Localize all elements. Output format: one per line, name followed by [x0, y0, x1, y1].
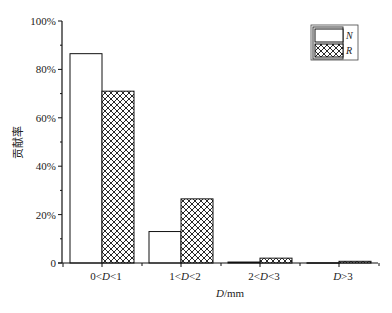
legend: NR	[311, 25, 358, 60]
legend-label-r: R	[345, 45, 352, 56]
legend-swatch-n	[315, 29, 343, 42]
y-tick-label: 20%	[36, 209, 56, 221]
legend-swatch-r	[315, 44, 343, 57]
legend-label-n: N	[345, 30, 354, 41]
bar-R-1	[181, 199, 213, 263]
bar-N-1	[149, 232, 181, 263]
y-axis-label: 贡献率	[11, 126, 24, 159]
bar-R-0	[102, 91, 134, 263]
y-tick-label: 60%	[36, 112, 56, 124]
x-tick-label: 1<D<2	[169, 270, 200, 282]
bar-chart: 020%40%60%80%100%0<D<11<D<22<D<3D>3D/mm贡…	[0, 0, 392, 313]
y-tick-label: 100%	[30, 15, 56, 27]
x-tick-label: 2<D<3	[248, 270, 280, 282]
y-tick-label: 40%	[36, 160, 56, 172]
y-tick-label: 0	[51, 257, 57, 269]
y-tick-label: 80%	[36, 63, 56, 75]
x-tick-label: D>3	[332, 270, 353, 282]
chart: 020%40%60%80%100%0<D<11<D<22<D<3D>3D/mm贡…	[0, 0, 392, 313]
x-tick-label: 0<D<1	[90, 270, 121, 282]
bar-R-2	[260, 258, 292, 263]
bar-N-0	[70, 54, 102, 263]
bars	[70, 54, 371, 264]
x-axis-label: D/mm	[215, 287, 245, 299]
